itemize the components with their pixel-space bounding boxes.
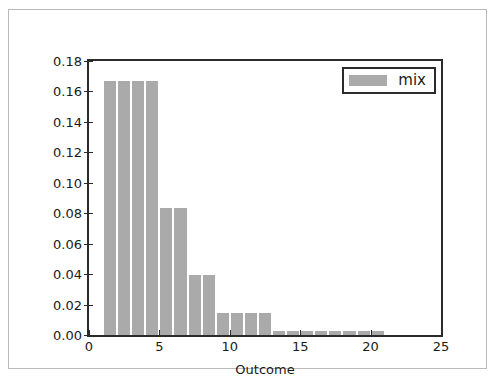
x-tick-mark bbox=[300, 330, 301, 335]
y-tick-label: 0.04 bbox=[53, 268, 82, 281]
bar bbox=[272, 331, 286, 335]
x-tick-label: 5 bbox=[155, 340, 163, 353]
plot-canvas bbox=[89, 61, 441, 335]
x-tick-mark bbox=[441, 330, 442, 335]
x-tick-label: 10 bbox=[222, 340, 239, 353]
chart-axes: 0.000.020.040.060.080.100.120.140.160.18… bbox=[87, 59, 443, 337]
x-tick-mark bbox=[89, 330, 90, 335]
x-tick-mark bbox=[371, 330, 372, 335]
bar bbox=[286, 331, 300, 335]
bar bbox=[131, 81, 145, 335]
y-tick-mark-inner bbox=[89, 213, 93, 214]
legend-swatch-mix bbox=[349, 75, 387, 86]
bar bbox=[371, 331, 385, 335]
bar bbox=[300, 331, 314, 335]
y-tick-mark-inner bbox=[89, 335, 93, 336]
bar bbox=[117, 81, 131, 335]
y-tick-label: 0.14 bbox=[53, 115, 82, 128]
x-tick-label: 25 bbox=[433, 340, 450, 353]
y-tick-label: 0.16 bbox=[53, 85, 82, 98]
y-tick-label: 0.02 bbox=[53, 298, 82, 311]
x-tick-label: 20 bbox=[362, 340, 379, 353]
bar bbox=[159, 208, 173, 335]
x-tick-label: 15 bbox=[292, 340, 309, 353]
bar bbox=[314, 331, 328, 335]
y-tick-mark-inner bbox=[89, 274, 93, 275]
y-tick-mark-inner bbox=[89, 152, 93, 153]
y-tick-label: 0.00 bbox=[53, 329, 82, 342]
legend-label-mix: mix bbox=[398, 73, 426, 88]
chart-legend: mix bbox=[342, 67, 436, 94]
bar bbox=[328, 331, 342, 335]
bar bbox=[357, 331, 371, 335]
bar bbox=[202, 275, 216, 335]
bar bbox=[103, 81, 117, 335]
figure-frame: 0.000.020.040.060.080.100.120.140.160.18… bbox=[8, 9, 487, 369]
y-tick-label: 0.18 bbox=[53, 55, 82, 68]
y-tick-label: 0.08 bbox=[53, 207, 82, 220]
bar bbox=[188, 275, 202, 335]
bar bbox=[173, 208, 187, 335]
bar bbox=[258, 313, 272, 335]
bar bbox=[244, 313, 258, 335]
y-tick-mark-inner bbox=[89, 183, 93, 184]
x-tick-mark bbox=[159, 330, 160, 335]
bar bbox=[342, 331, 356, 335]
y-tick-mark-inner bbox=[89, 244, 93, 245]
x-tick-label: 0 bbox=[85, 340, 93, 353]
y-tick-mark-inner bbox=[89, 61, 93, 62]
x-tick-mark bbox=[230, 330, 231, 335]
y-tick-mark-inner bbox=[89, 305, 93, 306]
y-tick-label: 0.06 bbox=[53, 237, 82, 250]
bar bbox=[216, 313, 230, 335]
y-tick-label: 0.12 bbox=[53, 146, 82, 159]
y-tick-label: 0.10 bbox=[53, 176, 82, 189]
x-axis-title: Outcome bbox=[87, 362, 443, 377]
bar bbox=[230, 313, 244, 335]
y-tick-mark-inner bbox=[89, 91, 93, 92]
y-tick-mark-inner bbox=[89, 122, 93, 123]
bar bbox=[145, 81, 159, 335]
